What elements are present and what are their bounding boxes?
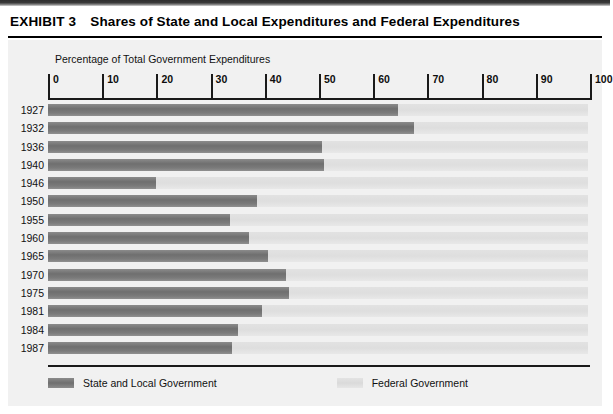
axis-tick-90: 90 bbox=[536, 74, 538, 100]
federal-bar-segment bbox=[48, 159, 588, 171]
x-axis-scale: 0102030405060708090100 bbox=[8, 74, 602, 100]
axis-tick-label-80: 80 bbox=[487, 73, 499, 85]
state-local-bar-segment bbox=[48, 232, 249, 244]
row-year-label: 1950 bbox=[14, 195, 44, 207]
federal-bar-segment bbox=[48, 232, 588, 244]
chart-row: 1932 bbox=[8, 120, 602, 138]
federal-bar-segment bbox=[48, 177, 588, 189]
axis-tick-label-10: 10 bbox=[107, 73, 119, 85]
exhibit-title-row: EXHIBIT 3 Shares of State and Local Expe… bbox=[10, 14, 600, 34]
state-local-bar-segment bbox=[48, 305, 262, 317]
federal-bar-segment bbox=[48, 250, 588, 262]
chart-row: 1936 bbox=[8, 139, 602, 157]
chart-row: 1975 bbox=[8, 285, 602, 303]
legend-item: State and Local Government bbox=[48, 377, 217, 389]
chart-row: 1940 bbox=[8, 157, 602, 175]
exhibit-page: EXHIBIT 3 Shares of State and Local Expe… bbox=[0, 6, 610, 414]
federal-bar-segment bbox=[48, 195, 588, 207]
state-local-bar-segment bbox=[48, 122, 414, 134]
axis-tick-label-60: 60 bbox=[378, 73, 390, 85]
row-year-label: 1946 bbox=[14, 177, 44, 189]
federal-bar-segment bbox=[48, 342, 588, 354]
federal-bar-segment bbox=[48, 269, 588, 281]
axis-tick-label-50: 50 bbox=[324, 73, 336, 85]
row-year-label: 1955 bbox=[14, 214, 44, 226]
axis-tick-label-0: 0 bbox=[53, 73, 59, 85]
chart-row: 1970 bbox=[8, 267, 602, 285]
state-local-bar-segment bbox=[48, 214, 230, 226]
legend-swatch-icon bbox=[48, 378, 74, 388]
federal-bar-segment bbox=[48, 141, 588, 153]
legend-item: Federal Government bbox=[337, 377, 468, 389]
axis-tick-label-90: 90 bbox=[541, 73, 553, 85]
row-year-label: 1932 bbox=[14, 122, 44, 134]
axis-tick-0: 0 bbox=[48, 74, 50, 100]
title-divider bbox=[8, 36, 602, 38]
federal-bar-segment bbox=[48, 287, 588, 299]
chart-legend: State and Local GovernmentFederal Govern… bbox=[48, 374, 590, 392]
row-year-label: 1981 bbox=[14, 305, 44, 317]
axis-tick-label-70: 70 bbox=[432, 73, 444, 85]
row-year-label: 1975 bbox=[14, 287, 44, 299]
axis-tick-label-20: 20 bbox=[161, 73, 173, 85]
state-local-bar-segment bbox=[48, 324, 238, 336]
chart-row: 1927 bbox=[8, 102, 602, 120]
state-local-bar-segment bbox=[48, 250, 268, 262]
row-year-label: 1965 bbox=[14, 250, 44, 262]
federal-bar-segment bbox=[48, 214, 588, 226]
x-axis-caption: Percentage of Total Government Expenditu… bbox=[55, 53, 270, 65]
federal-bar-segment bbox=[48, 104, 588, 116]
chart-row: 1946 bbox=[8, 175, 602, 193]
chart-row: 1984 bbox=[8, 322, 602, 340]
axis-tick-50: 50 bbox=[319, 74, 321, 100]
axis-tick-60: 60 bbox=[373, 74, 375, 100]
axis-tick-10: 10 bbox=[102, 74, 104, 100]
row-year-label: 1927 bbox=[14, 104, 44, 116]
axis-tick-30: 30 bbox=[211, 74, 213, 100]
axis-tick-label-30: 30 bbox=[216, 73, 228, 85]
chart-row: 1987 bbox=[8, 340, 602, 358]
chart-rows: 1927193219361940194619501955196019651970… bbox=[8, 102, 602, 358]
axis-tick-70: 70 bbox=[427, 74, 429, 100]
row-year-label: 1936 bbox=[14, 141, 44, 153]
federal-bar-segment bbox=[48, 305, 588, 317]
page-title: Shares of State and Local Expenditures a… bbox=[90, 14, 519, 29]
row-year-label: 1960 bbox=[14, 232, 44, 244]
state-local-bar-segment bbox=[48, 177, 156, 189]
exhibit-number-label: EXHIBIT 3 bbox=[10, 14, 76, 29]
row-year-label: 1940 bbox=[14, 159, 44, 171]
axis-tick-20: 20 bbox=[156, 74, 158, 100]
state-local-bar-segment bbox=[48, 269, 286, 281]
chart-row: 1965 bbox=[8, 248, 602, 266]
row-year-label: 1970 bbox=[14, 269, 44, 281]
state-local-bar-segment bbox=[48, 287, 289, 299]
chart-row: 1960 bbox=[8, 230, 602, 248]
federal-bar-segment bbox=[48, 324, 588, 336]
legend-divider bbox=[48, 365, 590, 367]
row-year-label: 1987 bbox=[14, 342, 44, 354]
legend-label: State and Local Government bbox=[83, 377, 217, 389]
axis-tick-label-40: 40 bbox=[270, 73, 282, 85]
axis-tick-40: 40 bbox=[265, 74, 267, 100]
state-local-bar-segment bbox=[48, 141, 322, 153]
federal-bar-segment bbox=[48, 122, 588, 134]
axis-tick-80: 80 bbox=[482, 74, 484, 100]
axis-tick-label-100: 100 bbox=[595, 73, 613, 85]
row-year-label: 1984 bbox=[14, 324, 44, 336]
legend-label: Federal Government bbox=[372, 377, 468, 389]
axis-tick-100: 100 bbox=[590, 74, 592, 100]
chart-panel: Percentage of Total Government Expenditu… bbox=[8, 40, 602, 406]
chart-row: 1981 bbox=[8, 303, 602, 321]
x-axis-baseline bbox=[48, 98, 590, 100]
state-local-bar-segment bbox=[48, 104, 398, 116]
chart-row: 1950 bbox=[8, 193, 602, 211]
state-local-bar-segment bbox=[48, 342, 232, 354]
state-local-bar-segment bbox=[48, 195, 257, 207]
state-local-bar-segment bbox=[48, 159, 324, 171]
legend-swatch-icon bbox=[337, 378, 363, 388]
chart-row: 1955 bbox=[8, 212, 602, 230]
